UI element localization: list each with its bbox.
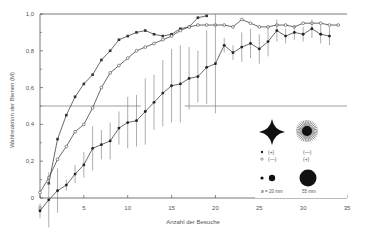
y-tick-label: 0,2 — [26, 158, 35, 164]
legend-label: (—) — [268, 156, 277, 162]
data-point-filled-circle — [249, 42, 252, 45]
data-point-filled-circle — [39, 209, 42, 212]
data-point-open-circle — [161, 38, 164, 41]
data-point-filled-circle — [109, 140, 112, 143]
data-point-square — [74, 96, 77, 99]
data-point-filled-circle — [267, 40, 270, 43]
legend-filled-dot — [261, 151, 263, 153]
y-axis-label: Wahlreaktion der Bienen (M) — [9, 72, 15, 148]
data-point-open-circle — [302, 22, 305, 25]
data-point-open-circle — [135, 49, 138, 52]
data-point-filled-circle — [118, 127, 121, 130]
data-point-filled-circle — [205, 66, 208, 69]
data-point-filled-circle — [56, 189, 59, 192]
data-point-filled-circle — [214, 62, 217, 65]
legend-open-dot — [261, 158, 263, 160]
x-axis-label: Anzahl der Besuche — [166, 219, 220, 225]
x-tick-label: 20 — [212, 205, 219, 211]
data-point-open-circle — [188, 25, 191, 28]
data-point-filled-circle — [284, 35, 287, 38]
data-point-square — [153, 33, 156, 36]
data-point-open-circle — [337, 24, 340, 27]
data-point-filled-circle — [232, 51, 235, 54]
data-point-filled-circle — [100, 143, 103, 146]
data-point-filled-circle — [311, 27, 314, 30]
x-tick-label: 30 — [300, 205, 307, 211]
data-point-square — [144, 29, 147, 32]
x-tick-label: 5 — [82, 205, 86, 211]
data-point-open-circle — [91, 106, 94, 109]
data-point-square — [65, 114, 68, 117]
data-point-filled-circle — [135, 119, 138, 122]
y-tick-label: 1,0 — [26, 11, 35, 17]
data-point-filled-circle — [65, 184, 68, 187]
data-point-open-circle — [223, 24, 226, 27]
y-tick-label: 0,4 — [26, 121, 35, 127]
data-point-open-circle — [205, 24, 208, 27]
y-tick-label: 0,6 — [26, 85, 35, 91]
size-dot-large — [300, 170, 317, 187]
starburst-center — [302, 126, 312, 136]
data-point-open-circle — [65, 145, 68, 148]
data-point-square — [118, 38, 121, 41]
data-point-filled-circle — [82, 163, 85, 166]
data-point-square — [100, 59, 103, 62]
data-point-filled-circle — [293, 31, 296, 34]
data-point-filled-circle — [47, 198, 50, 201]
data-point-open-circle — [232, 25, 235, 28]
data-point-filled-circle — [302, 33, 305, 36]
data-point-square — [126, 35, 129, 38]
data-point-square — [56, 138, 59, 141]
size-label-large: 55 mm — [302, 189, 316, 194]
data-point-square — [91, 73, 94, 76]
data-point-filled-circle — [196, 75, 199, 78]
chart: 0510152025303500,20,40,60,81,0 (+)(—)(—)… — [0, 0, 365, 238]
data-point-filled-circle — [188, 77, 191, 80]
x-tick-label: 25 — [256, 205, 263, 211]
data-point-filled-circle — [74, 173, 77, 176]
data-point-filled-circle — [179, 83, 182, 86]
data-point-filled-circle — [319, 33, 322, 36]
data-point-open-circle — [82, 123, 85, 126]
x-tick-label: 35 — [344, 205, 351, 211]
data-point-filled-circle — [161, 92, 164, 95]
data-point-filled-circle — [144, 110, 147, 113]
data-point-square — [83, 83, 86, 86]
data-point-open-circle — [284, 24, 287, 27]
legend-label: (—) — [303, 149, 312, 155]
data-point-open-circle — [109, 71, 112, 74]
y-tick-label: 0,8 — [26, 48, 35, 54]
data-point-open-circle — [39, 191, 42, 194]
data-point-open-circle — [74, 130, 77, 133]
legend-label: (+) — [303, 156, 310, 162]
data-point-open-circle — [196, 24, 199, 27]
data-point-open-circle — [144, 46, 147, 49]
data-point-square — [162, 35, 165, 38]
size-label-small: ø = 20 mm — [261, 189, 283, 194]
data-point-filled-circle — [258, 48, 261, 51]
data-point-open-circle — [258, 25, 261, 28]
data-point-open-circle — [249, 22, 252, 25]
legend: (+)(—)(—)(+)ø = 20 mm55 mm — [255, 118, 347, 198]
data-point-filled-circle — [170, 84, 173, 87]
data-point-filled-circle — [240, 46, 243, 49]
data-point-open-circle — [240, 18, 243, 21]
data-point-filled-circle — [275, 29, 278, 32]
data-point-square — [135, 31, 138, 34]
y-tick-label: 0 — [31, 195, 35, 201]
data-point-filled-circle — [91, 147, 94, 150]
data-point-open-circle — [100, 86, 103, 89]
size-dot-small — [260, 176, 263, 179]
data-point-filled-circle — [328, 35, 331, 38]
data-point-filled-circle — [126, 121, 129, 124]
data-point-square — [197, 16, 200, 19]
legend-label: (+) — [268, 149, 275, 155]
data-point-open-circle — [328, 24, 331, 27]
size-dot-medium — [269, 175, 275, 181]
x-tick-label: 15 — [168, 205, 175, 211]
data-point-filled-circle — [153, 101, 156, 104]
x-tick-label: 10 — [124, 205, 131, 211]
data-point-open-circle — [319, 22, 322, 25]
data-point-open-circle — [170, 35, 173, 38]
data-point-open-circle — [118, 64, 121, 67]
